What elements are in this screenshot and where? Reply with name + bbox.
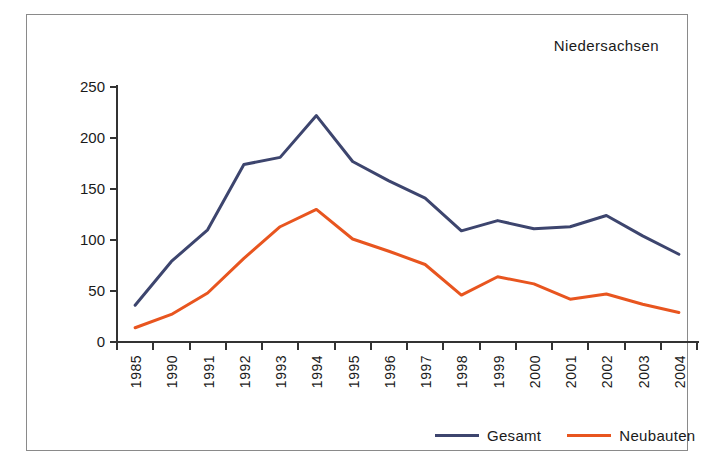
y-axis-tick-mark [110, 239, 117, 241]
x-axis-tick-label: 2002 [599, 355, 615, 388]
y-axis-tick-mark [110, 290, 117, 292]
x-axis-tick-mark [551, 343, 553, 350]
y-axis-tick-label-wrap: 250 [60, 79, 105, 94]
x-axis-tick-mark [225, 343, 227, 350]
x-axis-tick-label: 2000 [527, 355, 543, 388]
legend-item[interactable]: Gesamt [435, 427, 541, 444]
x-axis-tick-label: 1996 [382, 355, 398, 388]
x-axis-tick-mark [406, 343, 408, 350]
y-axis-tick-label-wrap: 150 [60, 181, 105, 196]
y-axis-tick-label-wrap: 200 [60, 130, 105, 145]
x-axis-tick-mark [370, 343, 372, 350]
y-axis-tick-label: 50 [65, 283, 105, 298]
x-axis-tick-mark [587, 343, 589, 350]
x-axis-tick-label: 1995 [346, 355, 362, 388]
legend-color-swatch [567, 434, 611, 437]
x-axis-tick-mark [660, 343, 662, 350]
y-axis-tick-label: 200 [65, 130, 105, 145]
x-axis-tick-label: 1991 [201, 355, 217, 388]
y-axis-tick-label-wrap: 100 [60, 232, 105, 247]
chart-legend: GesamtNeubauten [435, 427, 695, 444]
x-axis-tick-label: 1994 [309, 355, 325, 388]
y-axis-tick-label-wrap: 50 [60, 283, 105, 298]
y-axis-tick-label: 250 [65, 79, 105, 94]
series-lines [117, 87, 697, 342]
y-axis-tick-mark [110, 137, 117, 139]
legend-color-swatch [435, 434, 479, 437]
series-line-neubauten [135, 209, 679, 327]
legend-label: Neubauten [619, 427, 695, 444]
x-axis-tick-label: 1985 [128, 355, 144, 388]
x-axis-tick-mark [624, 343, 626, 350]
x-axis-tick-mark [152, 343, 154, 350]
x-axis-tick-label: 1992 [237, 355, 253, 388]
y-axis-tick-label: 100 [65, 232, 105, 247]
y-axis-tick-label-wrap: 0 [60, 334, 105, 349]
legend-label: Gesamt [487, 427, 541, 444]
y-axis-tick-mark [110, 188, 117, 190]
series-line-gesamt [135, 116, 679, 306]
y-axis-tick-label: 150 [65, 181, 105, 196]
y-axis-tick-mark [110, 86, 117, 88]
plot-area [117, 87, 697, 342]
x-axis-tick-mark [334, 343, 336, 350]
x-axis-tick-label: 1993 [273, 355, 289, 388]
x-axis-tick-label: 1997 [418, 355, 434, 388]
chart-frame: Niedersachsen 050100150200250 1985199019… [26, 14, 688, 451]
x-axis-tick-label: 1990 [164, 355, 180, 388]
x-axis-tick-mark [696, 343, 698, 350]
x-axis-tick-label: 1999 [491, 355, 507, 388]
chart-title: Niedersachsen [554, 37, 659, 54]
x-axis-tick-mark [479, 343, 481, 350]
y-axis-tick-label: 0 [65, 334, 105, 349]
x-axis-tick-mark [442, 343, 444, 350]
x-axis-tick-mark [116, 343, 118, 350]
x-axis-tick-mark [189, 343, 191, 350]
x-axis-tick-mark [261, 343, 263, 350]
legend-item[interactable]: Neubauten [567, 427, 695, 444]
x-axis-tick-label: 2003 [636, 355, 652, 388]
x-axis-tick-mark [515, 343, 517, 350]
x-axis-tick-label: 2001 [563, 355, 579, 388]
x-axis-tick-label: 1998 [454, 355, 470, 388]
x-axis-tick-label: 2004 [672, 355, 688, 388]
x-axis-tick-mark [297, 343, 299, 350]
